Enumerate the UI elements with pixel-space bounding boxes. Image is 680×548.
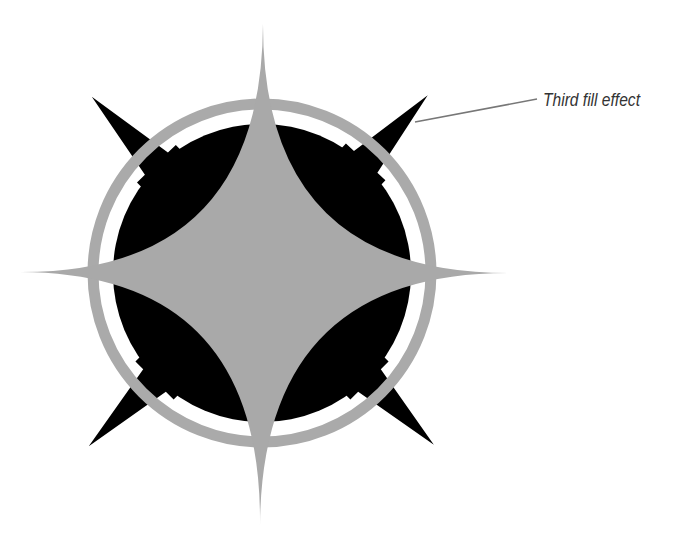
- leader-line: [415, 99, 537, 122]
- compass-star-diagram: [0, 0, 680, 548]
- annotation-label: Third fill effect: [543, 89, 640, 111]
